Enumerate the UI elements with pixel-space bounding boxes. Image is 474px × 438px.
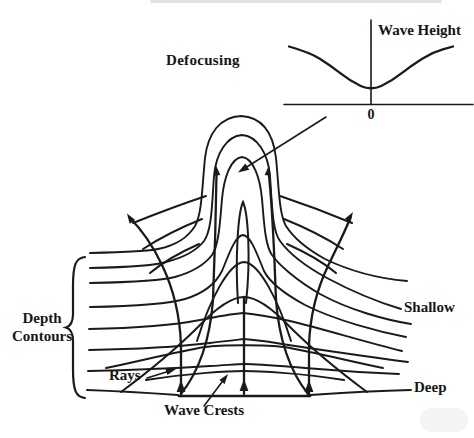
wave-ray-lines — [129, 170, 351, 396]
defocusing-label: Defocusing — [166, 52, 240, 69]
shallow-label: Shallow — [404, 299, 455, 316]
depth-contours-label: Depth Contours — [2, 309, 82, 345]
arrowhead — [238, 164, 249, 173]
depth-contour-line — [310, 390, 411, 395]
wave-height-axis-label: Wave Height — [378, 22, 461, 39]
zero-tick-label: 0 — [364, 107, 378, 123]
deep-label: Deep — [414, 379, 447, 396]
ray-arrowhead — [240, 379, 249, 391]
wave-crest-line — [280, 196, 352, 223]
defocusing-refraction-figure: Defocusing Wave Height 0 Depth Contours … — [0, 0, 474, 438]
defocusing-arrow — [238, 117, 326, 173]
ray-arrowhead — [305, 380, 314, 392]
wave-crests-label: Wave Crests — [164, 402, 244, 419]
depth-contour-line — [87, 390, 178, 395]
rays-label: Rays — [109, 367, 141, 384]
ray-arrowhead — [177, 380, 186, 392]
center-contour-tongue — [237, 202, 249, 303]
depth-contour-line — [89, 339, 408, 362]
depth-contours-label-line1: Depth — [2, 309, 82, 327]
depth-contour-lines — [87, 116, 411, 395]
arrowhead — [166, 369, 177, 375]
depth-contours-label-line2: Contours — [2, 327, 82, 345]
wave-crest-line — [133, 196, 206, 223]
